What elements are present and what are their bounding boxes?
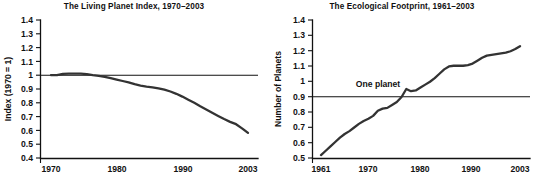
x-tick-label: 2003	[510, 164, 529, 174]
ecological-footprint-plot: 1.4 1.3 1.2 1.1 1 0.9 0.8 0.7 0.6 0.5 19…	[268, 0, 536, 186]
chart-panel-ecological-footprint: The Ecological Footprint, 1961–2003	[268, 0, 536, 186]
x-tick-label: 1961	[311, 164, 330, 174]
chart-panel-living-planet-index: The Living Planet Index, 1970–2003	[0, 0, 268, 186]
y-tick-label: 1.2	[21, 43, 33, 53]
y-tick-label: 0.5	[293, 153, 305, 163]
y-axis-title-right: Number of Planets	[273, 51, 283, 127]
data-series-ecological-footprint	[321, 46, 520, 155]
y-axis-title-left: Index (1970 = 1)	[3, 57, 13, 121]
y-tick-label: 0.6	[293, 138, 305, 148]
y-tick-label: 0.5	[21, 139, 33, 149]
y-tick-label: 0.7	[293, 122, 305, 132]
y-tick-label: 0.8	[293, 107, 305, 117]
x-tick-label: 1990	[461, 164, 480, 174]
x-tick-label: 2003	[238, 164, 257, 174]
x-tick-label: 1980	[107, 164, 126, 174]
living-planet-index-plot: 1.4 1.3 1.2 1.1 1 0.9 0.8 0.7 0.6 0.5 0.…	[0, 0, 268, 186]
data-series-living-planet-index	[51, 74, 248, 133]
x-tick-labels-right: 1961 1970 1980 1990 2003	[311, 164, 529, 174]
y-tick-label: 1.1	[21, 57, 33, 67]
y-tick-label: 1.3	[21, 29, 33, 39]
y-tick-label: 1	[28, 70, 33, 80]
y-tick-label: 0.9	[21, 84, 33, 94]
y-tick-label: 0.4	[21, 153, 33, 163]
y-tick-label: 1.3	[293, 30, 305, 40]
y-tick-label: 0.8	[21, 98, 33, 108]
y-tick-labels-right: 1.4 1.3 1.2 1.1 1 0.9 0.8 0.7 0.6 0.5	[293, 15, 305, 163]
y-tick-label: 0.9	[293, 92, 305, 102]
dual-chart-figure: The Living Planet Index, 1970–2003	[0, 0, 536, 186]
y-tick-marks-left	[36, 20, 41, 158]
y-tick-label: 0.6	[21, 126, 33, 136]
one-planet-annotation: One planet	[356, 79, 401, 89]
x-tick-label: 1970	[358, 164, 377, 174]
y-tick-labels-left: 1.4 1.3 1.2 1.1 1 0.9 0.8 0.7 0.6 0.5 0.…	[21, 15, 33, 163]
y-tick-marks-right	[308, 20, 313, 158]
y-tick-label: 1.4	[293, 15, 305, 25]
y-tick-label: 0.7	[21, 112, 33, 122]
x-tick-label: 1990	[173, 164, 192, 174]
y-tick-label: 1	[300, 76, 305, 86]
x-tick-labels-left: 1970 1980 1990 2003	[41, 164, 257, 174]
y-tick-label: 1.2	[293, 46, 305, 56]
x-tick-label: 1980	[410, 164, 429, 174]
y-tick-label: 1.4	[21, 15, 33, 25]
y-tick-label: 1.1	[293, 61, 305, 71]
x-tick-label: 1970	[41, 164, 60, 174]
